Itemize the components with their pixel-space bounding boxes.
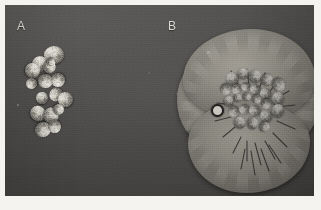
bright-speck-upper <box>207 51 210 54</box>
figure-page: A B <box>0 0 321 210</box>
faint-speck-mid <box>148 72 150 74</box>
panel-label-b: B <box>168 20 176 32</box>
bright-speck-left <box>17 104 19 106</box>
ring-artifact <box>211 104 224 117</box>
faint-speck-right <box>176 93 178 95</box>
photograph: A B <box>5 5 314 196</box>
photo-artifacts <box>5 5 314 196</box>
panel-label-a: A <box>17 20 25 32</box>
